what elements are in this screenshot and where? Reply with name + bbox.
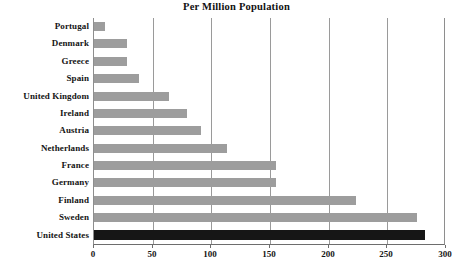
bar-austria xyxy=(94,126,201,135)
bar-united-states xyxy=(94,230,425,240)
bar-united-kingdom xyxy=(94,92,169,101)
value-label-50: 50 xyxy=(132,249,172,259)
tick-150 xyxy=(269,245,270,248)
category-axis-labels: PortugalDenmarkGreeceSpainUnited Kingdom… xyxy=(0,18,89,244)
value-label-250: 250 xyxy=(366,249,406,259)
category-label-united-kingdom: United Kingdom xyxy=(0,88,89,105)
category-label-greece: Greece xyxy=(0,53,89,70)
bar-row xyxy=(94,88,444,105)
value-label-150: 150 xyxy=(249,249,289,259)
category-label-germany: Germany xyxy=(0,174,89,191)
category-label-ireland: Ireland xyxy=(0,105,89,122)
category-label-austria: Austria xyxy=(0,122,89,139)
value-label-0: 0 xyxy=(73,249,113,259)
bar-row xyxy=(94,18,444,35)
chart-title: Per Million Population xyxy=(0,1,473,12)
tick-200 xyxy=(328,245,329,248)
value-label-300: 300 xyxy=(425,249,465,259)
value-label-200: 200 xyxy=(308,249,348,259)
bar-france xyxy=(94,161,276,170)
bar-portugal xyxy=(94,22,105,31)
bar-spain xyxy=(94,74,139,83)
category-label-portugal: Portugal xyxy=(0,18,89,35)
tick-250 xyxy=(386,245,387,248)
value-label-100: 100 xyxy=(190,249,230,259)
category-label-france: France xyxy=(0,157,89,174)
bar-row xyxy=(94,192,444,209)
category-label-finland: Finland xyxy=(0,192,89,209)
bar-finland xyxy=(94,196,356,205)
bar-row xyxy=(94,105,444,122)
bar-denmark xyxy=(94,39,127,48)
bar-row xyxy=(94,122,444,139)
tick-100 xyxy=(210,245,211,248)
bars-layer xyxy=(94,18,444,243)
bar-row xyxy=(94,140,444,157)
category-label-united-states: United States xyxy=(0,227,89,244)
bar-row xyxy=(94,70,444,87)
plot-area xyxy=(93,18,445,245)
bar-germany xyxy=(94,178,276,187)
bar-ireland xyxy=(94,109,187,118)
bar-row xyxy=(94,53,444,70)
tick-0 xyxy=(93,245,94,248)
category-label-sweden: Sweden xyxy=(0,209,89,226)
value-axis-labels: 050100150200250300 xyxy=(0,249,473,265)
bar-chart: Per Million Population PortugalDenmarkGr… xyxy=(0,0,473,273)
bar-row xyxy=(94,174,444,191)
bar-row xyxy=(94,157,444,174)
bar-row xyxy=(94,209,444,226)
tick-300 xyxy=(445,245,446,248)
bar-netherlands xyxy=(94,144,227,153)
category-label-spain: Spain xyxy=(0,70,89,87)
category-label-denmark: Denmark xyxy=(0,35,89,52)
tick-50 xyxy=(152,245,153,248)
bar-row xyxy=(94,227,444,244)
bar-row xyxy=(94,35,444,52)
bar-greece xyxy=(94,57,127,66)
bar-sweden xyxy=(94,213,417,222)
category-label-netherlands: Netherlands xyxy=(0,140,89,157)
